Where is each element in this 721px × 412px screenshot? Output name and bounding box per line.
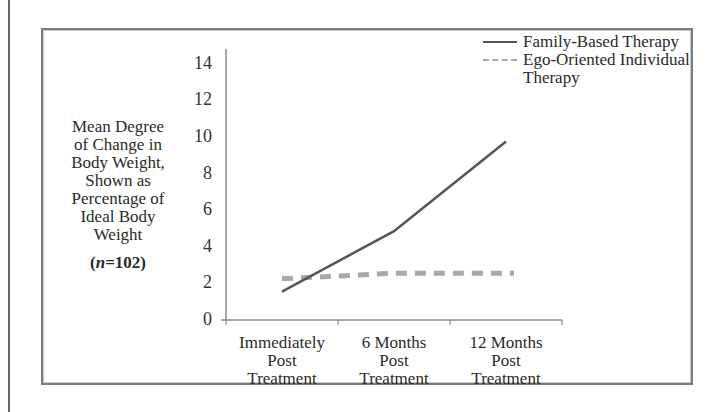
y-tick-label: 4 xyxy=(203,236,212,256)
series-line-family-based-therapy xyxy=(282,141,506,291)
legend-item-ego-oriented-individual-therapy: Ego-Oriented Individual Therapy xyxy=(483,51,690,87)
x-category-label: 6 Months xyxy=(362,333,427,352)
chart-legend: Family-Based Therapy Ego-Oriented Indivi… xyxy=(483,33,690,87)
legend-label: Ego-Oriented Individual Therapy xyxy=(523,51,690,87)
x-category-label: Treatment xyxy=(247,369,317,388)
y-tick-label: 12 xyxy=(194,89,212,109)
y-tick-label: 0 xyxy=(203,309,212,329)
x-category-label: Treatment xyxy=(359,369,429,388)
x-category-label: Post xyxy=(491,351,521,370)
y-tick-label: 8 xyxy=(203,163,212,183)
y-axis-ticks: 02468101214 xyxy=(194,53,212,329)
x-category-label: Treatment xyxy=(471,369,541,388)
dashed-line-swatch-icon xyxy=(483,59,517,61)
y-tick-label: 2 xyxy=(203,272,212,292)
legend-label: Family-Based Therapy xyxy=(523,33,679,51)
legend-item-family-based-therapy: Family-Based Therapy xyxy=(483,33,690,51)
x-category-label: Post xyxy=(267,351,297,370)
y-tick-label: 14 xyxy=(194,53,212,73)
solid-line-swatch-icon xyxy=(483,41,517,43)
y-tick-label: 6 xyxy=(203,199,212,219)
x-category-label: 12 Months xyxy=(469,333,542,352)
y-tick-label: 10 xyxy=(194,126,212,146)
x-category-label: Immediately xyxy=(239,333,325,352)
x-category-label: Post xyxy=(379,351,409,370)
x-axis-category-labels: ImmediatelyPostTreatment6 MonthsPostTrea… xyxy=(239,333,543,388)
